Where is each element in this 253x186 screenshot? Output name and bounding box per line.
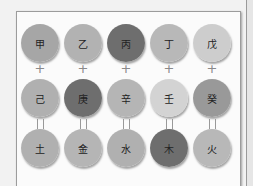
stem-circle: 辛 (107, 79, 145, 117)
circle-label: 金 (78, 141, 88, 156)
plus-sign: + (34, 63, 46, 75)
stem-circle: 戊 (193, 24, 231, 62)
stem-circle: 己 (21, 79, 59, 117)
circle-label: 癸 (207, 91, 217, 106)
stem-circle: 庚 (64, 79, 102, 117)
equals-sign (123, 119, 130, 129)
equals-sign (209, 119, 216, 129)
circle-label: 己 (35, 91, 45, 106)
circle-label: 庚 (78, 91, 88, 106)
circle-label: 木 (164, 141, 174, 156)
circle-label: 土 (35, 141, 45, 156)
circle-label: 乙 (78, 36, 88, 51)
equals-sign (80, 119, 87, 129)
element-circle: 水 (107, 129, 145, 167)
stem-circle: 乙 (64, 24, 102, 62)
stem-circle: 甲 (21, 24, 59, 62)
element-circle: 土 (21, 129, 59, 167)
stem-circle: 丙 (107, 24, 145, 62)
stem-circle: 丁 (150, 24, 188, 62)
circle-label: 壬 (164, 91, 174, 106)
stem-circle: 壬 (150, 79, 188, 117)
window-edge (246, 0, 253, 186)
element-circle: 火 (193, 129, 231, 167)
stem-circle: 癸 (193, 79, 231, 117)
element-circle: 木 (150, 129, 188, 167)
circle-label: 辛 (121, 91, 131, 106)
circle-label: 丁 (164, 36, 174, 51)
circle-label: 甲 (35, 36, 45, 51)
equals-sign (37, 119, 44, 129)
circle-label: 丙 (121, 36, 131, 51)
plus-sign: + (163, 63, 175, 75)
circle-label: 戊 (207, 36, 217, 51)
plus-sign: + (77, 63, 89, 75)
plus-sign: + (206, 63, 218, 75)
circle-label: 火 (207, 141, 217, 156)
circle-label: 水 (121, 141, 131, 156)
equals-sign (166, 119, 173, 129)
element-circle: 金 (64, 129, 102, 167)
plus-sign: + (120, 63, 132, 75)
